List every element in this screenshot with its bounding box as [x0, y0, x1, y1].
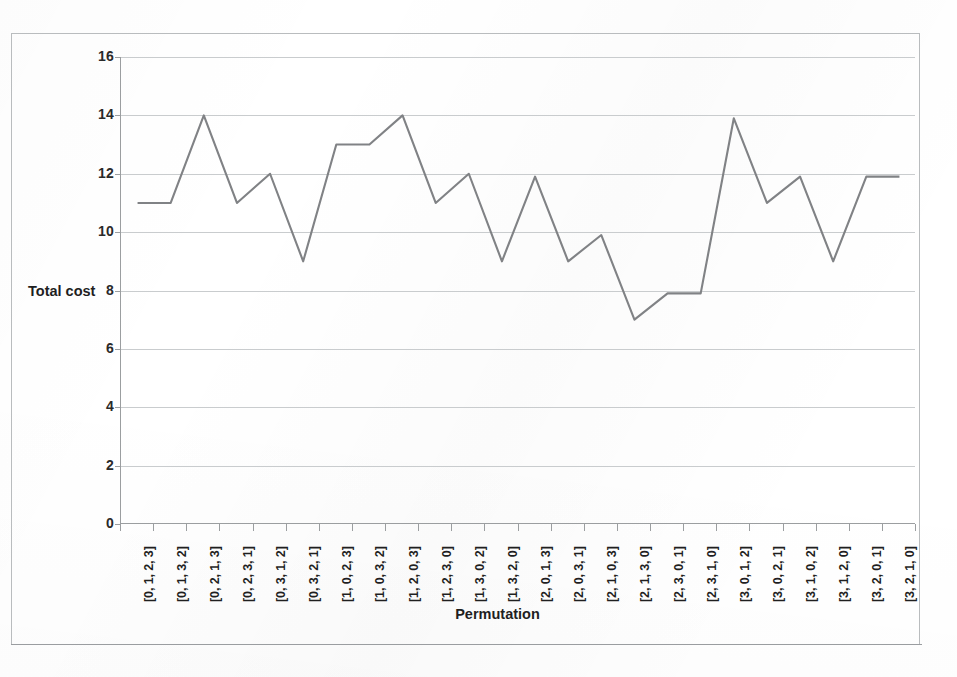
x-category-label: [3, 0, 2, 1]: [771, 530, 785, 602]
x-axis-title: Permutation: [0, 606, 957, 622]
y-tick-label-16: 16: [98, 48, 114, 64]
x-category-label: [0, 3, 1, 2]: [274, 530, 288, 602]
x-category-label: [0, 2, 1, 3]: [208, 530, 222, 602]
x-category-label: [1, 2, 3, 0]: [440, 530, 454, 602]
x-category-label: [2, 0, 1, 3]: [539, 530, 553, 602]
x-category-label: [0, 1, 3, 2]: [175, 530, 189, 602]
x-category-label: [2, 3, 0, 1]: [672, 530, 686, 602]
x-category-label: [1, 3, 0, 2]: [473, 530, 487, 602]
x-category-label: [1, 0, 2, 3]: [340, 530, 354, 602]
x-category-label: [0, 3, 2, 1]: [307, 530, 321, 602]
y-tick-label-2: 2: [106, 457, 114, 473]
x-axis-category-labels: [0, 1, 2, 3][0, 1, 3, 2][0, 2, 1, 3][0, …: [120, 532, 915, 602]
x-category-label: [3, 1, 2, 0]: [837, 530, 851, 602]
y-tick-label-8: 8: [106, 282, 114, 298]
x-axis-title-text: Permutation: [455, 606, 540, 622]
chart-border-bottom-edge: [11, 644, 922, 645]
x-tick-0: [120, 524, 121, 531]
plot-area: [120, 57, 915, 524]
y-axis-tick-labels: 0246810121416: [86, 57, 114, 524]
scanned-page: Total cost 0246810121416 [0, 1, 2, 3][0,…: [0, 0, 957, 677]
x-category-label: [0, 1, 2, 3]: [142, 530, 156, 602]
x-category-label: [0, 2, 3, 1]: [241, 530, 255, 602]
x-category-label: [2, 1, 3, 0]: [638, 530, 652, 602]
y-tick-label-10: 10: [98, 223, 114, 239]
x-category-label: [1, 3, 2, 0]: [506, 530, 520, 602]
x-category-label: [2, 0, 3, 1]: [572, 530, 586, 602]
x-category-label: [2, 1, 0, 3]: [605, 530, 619, 602]
x-category-label: [3, 1, 0, 2]: [804, 530, 818, 602]
y-tick-label-0: 0: [106, 515, 114, 531]
y-tick-label-12: 12: [98, 165, 114, 181]
x-category-label: [1, 2, 0, 3]: [407, 530, 421, 602]
x-category-label: [3, 0, 1, 2]: [738, 530, 752, 602]
line-series: [121, 57, 916, 524]
x-category-label: [3, 2, 0, 1]: [870, 530, 884, 602]
x-category-label: [3, 2, 1, 0]: [903, 530, 917, 602]
x-category-label: [2, 3, 1, 0]: [705, 530, 719, 602]
y-tick-label-14: 14: [98, 106, 114, 122]
x-category-label: [1, 0, 3, 2]: [373, 530, 387, 602]
y-tick-label-6: 6: [106, 340, 114, 356]
total-cost-line: [138, 115, 900, 319]
y-tick-label-4: 4: [106, 398, 114, 414]
